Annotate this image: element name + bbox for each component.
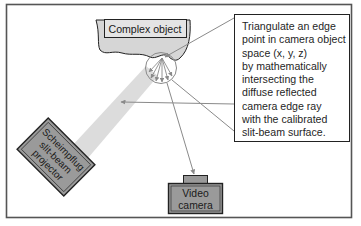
note-line: intersecting the xyxy=(242,73,349,86)
note-line: with the calibrated xyxy=(242,113,349,126)
camera-label-line-2: camera xyxy=(178,200,213,211)
note-line: diffuse reflected xyxy=(242,86,349,99)
note-line: Triangulate an edge xyxy=(242,20,349,33)
note-line: by mathematically xyxy=(242,60,349,73)
note-line: slit-beam surface. xyxy=(242,126,349,139)
camera-lens xyxy=(184,176,208,184)
camera-label-line-1: Video xyxy=(182,188,209,199)
note-line: point in camera object xyxy=(242,33,349,46)
triangulation-note: Triangulate an edge point in camera obje… xyxy=(234,14,350,142)
note-line: camera edge ray xyxy=(242,100,349,113)
complex-object-label: Complex object xyxy=(108,23,181,35)
note-line: space (x, y, z) xyxy=(242,47,349,60)
